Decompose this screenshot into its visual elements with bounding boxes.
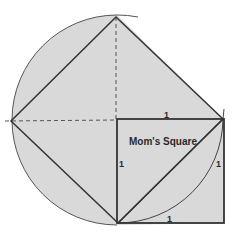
moms-square-diagram: Mom's Square 1 1 1 1 — [0, 0, 232, 233]
side-label-bottom: 1 — [167, 214, 172, 224]
side-label-top: 1 — [164, 110, 169, 120]
side-label-right: 1 — [216, 159, 221, 169]
side-label-left: 1 — [119, 159, 124, 169]
moms-square-label: Mom's Square — [129, 136, 197, 147]
